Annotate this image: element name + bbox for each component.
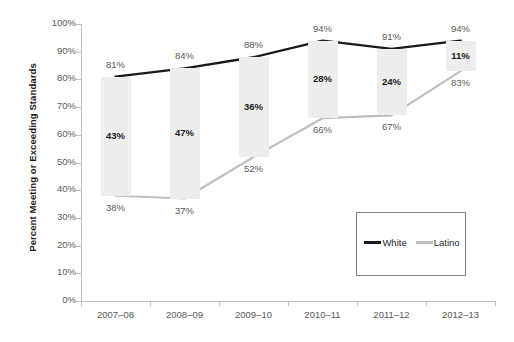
data-label-latino: 37% — [160, 205, 210, 216]
data-label-white: 81% — [91, 59, 141, 70]
legend-swatch-white-icon — [364, 241, 381, 244]
data-label-latino: 38% — [91, 202, 141, 213]
gap-bar-label: 36% — [230, 101, 278, 112]
data-label-white: 94% — [298, 23, 348, 34]
data-label-white: 88% — [229, 39, 279, 50]
x-axis-category-label: 2011–12 — [352, 309, 432, 320]
x-axis-category-label: 2009–10 — [214, 309, 294, 320]
x-axis-tick-mark — [426, 301, 427, 306]
x-axis-tick-mark — [495, 301, 496, 306]
y-axis-tick-mark — [76, 24, 81, 25]
data-label-white: 94% — [436, 23, 486, 34]
y-axis-tick-mark — [76, 218, 81, 219]
legend-item-white: White — [364, 237, 406, 248]
y-axis-tick-mark — [76, 190, 81, 191]
y-axis-tick-mark — [76, 246, 81, 247]
x-axis-category-label: 2012–13 — [421, 309, 501, 320]
data-label-latino: 52% — [229, 163, 279, 174]
data-label-latino: 66% — [298, 124, 348, 135]
y-axis-tick-mark — [76, 163, 81, 164]
data-label-latino: 83% — [436, 77, 486, 88]
data-label-white: 91% — [367, 31, 417, 42]
y-axis-tick-mark — [76, 52, 81, 53]
x-axis-tick-mark — [81, 301, 82, 306]
x-axis-tick-mark — [150, 301, 151, 306]
chart-container: Percent Meeting or Exceeding Standards 0… — [0, 0, 514, 342]
legend: White Latino — [356, 212, 466, 276]
gap-bar-label: 43% — [92, 130, 140, 141]
gap-bar-label: 11% — [437, 50, 485, 61]
legend-item-latino: Latino — [416, 237, 460, 248]
legend-swatch-latino-icon — [416, 241, 433, 243]
legend-label-latino: Latino — [434, 237, 460, 248]
x-axis-tick-mark — [288, 301, 289, 306]
data-label-latino: 67% — [367, 121, 417, 132]
data-label-white: 84% — [160, 50, 210, 61]
x-axis-tick-mark — [219, 301, 220, 306]
x-axis-category-label: 2008–09 — [145, 309, 225, 320]
y-axis-tick-mark — [76, 107, 81, 108]
y-axis-tick-mark — [76, 135, 81, 136]
gap-bar-label: 28% — [299, 73, 347, 84]
gap-bar-label: 24% — [368, 76, 416, 87]
x-axis-category-label: 2007–08 — [76, 309, 156, 320]
y-axis-tick-mark — [76, 273, 81, 274]
gap-bar-label: 47% — [161, 127, 209, 138]
y-axis-tick-mark — [76, 79, 81, 80]
legend-label-white: White — [382, 237, 406, 248]
x-axis-tick-mark — [357, 301, 358, 306]
x-axis-category-label: 2010–11 — [283, 309, 363, 320]
